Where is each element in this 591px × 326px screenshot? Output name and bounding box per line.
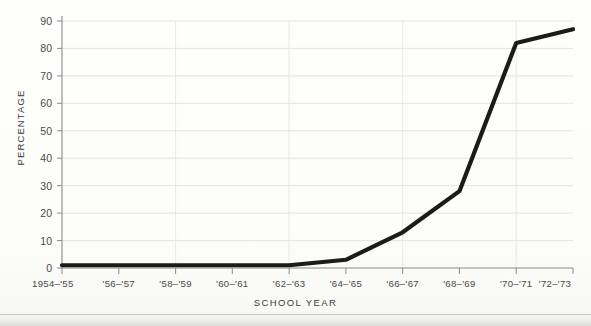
x-tick-label: 1954–'55 [32,278,74,289]
x-tick-label: '56–'57 [103,278,135,289]
y-tick-label: 30 [40,180,52,192]
y-tick-label: 60 [40,97,52,109]
x-tick-label: '66–'67 [386,278,418,289]
y-tick-label: 40 [40,152,52,164]
y-tick-label: 50 [40,125,52,137]
x-tick-label: '62–'63 [273,278,305,289]
line-chart-plot: 01020304050607080901954–'55'56–'57'58–'5… [0,0,591,326]
x-tick-label: '72–'73 [539,278,571,289]
x-tick-label: '58–'59 [159,278,191,289]
x-tick-label: '68–'69 [443,278,475,289]
data-series-line [62,29,573,265]
page-edge-shadow [0,312,591,326]
x-tick-label: '60–'61 [216,278,248,289]
y-tick-label: 0 [46,262,52,274]
chart-figure: PERCENTAGE SCHOOL YEAR 01020304050607080… [0,0,591,326]
y-tick-label: 10 [40,235,52,247]
y-tick-label: 80 [40,42,52,54]
y-tick-label: 70 [40,70,52,82]
y-tick-label: 90 [40,15,52,27]
y-tick-label: 20 [40,207,52,219]
x-tick-label: '70–'71 [500,278,532,289]
x-tick-label: '64–'65 [330,278,362,289]
